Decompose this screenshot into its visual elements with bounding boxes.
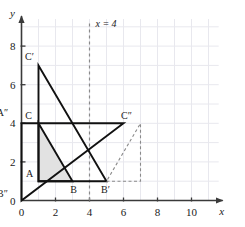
x-tick-label: 6 [121, 206, 127, 218]
label-B-dprime: B″ [0, 188, 8, 199]
y-axis-label: y [9, 7, 15, 19]
label-A: A [26, 168, 34, 179]
y-tick-label: 8 [10, 40, 16, 52]
x-axis-label: x [218, 205, 224, 217]
x-tick-label: 2 [53, 206, 59, 218]
label-B-prime: B′ [101, 184, 110, 195]
geometry-figure: 024681002468xy ABCC′B′C″A″B″ x = 4 [0, 0, 245, 227]
x-tick-label: 0 [19, 206, 25, 218]
annotations: x = 4 [94, 18, 116, 29]
x-tick-label: 8 [155, 206, 161, 218]
x-tick-label: 10 [186, 206, 198, 218]
mirror-line-label: x = 4 [94, 18, 116, 29]
label-C: C [25, 110, 32, 121]
x-tick-label: 4 [87, 206, 93, 218]
y-tick-label: 2 [10, 156, 16, 168]
label-C-prime: C′ [25, 51, 34, 62]
y-tick-label: 0 [10, 195, 16, 207]
y-tick-label: 4 [10, 117, 16, 129]
coordinate-plot: 024681002468xy ABCC′B′C″A″B″ x = 4 [0, 0, 245, 227]
label-A-dprime: A″ [0, 107, 8, 118]
label-C-dprime: C″ [121, 110, 132, 121]
label-B: B [70, 184, 77, 195]
y-tick-label: 6 [10, 79, 16, 91]
